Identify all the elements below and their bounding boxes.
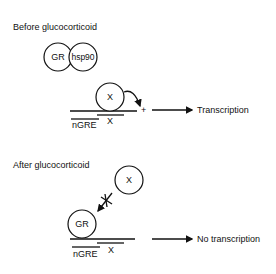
gr-label: GR xyxy=(51,52,65,62)
ngre-label: nGRE xyxy=(72,120,97,130)
gr-label: GR xyxy=(75,219,89,229)
plus-sign: + xyxy=(141,105,146,115)
diagram: Before glucocorticoid GR hsp90 X X nGRE … xyxy=(0,0,276,274)
x-protein-label: X xyxy=(126,175,132,185)
x-site-label: X xyxy=(107,116,113,126)
hsp90-label: hsp90 xyxy=(71,52,94,62)
before-panel: Before glucocorticoid GR hsp90 X X nGRE … xyxy=(13,22,249,130)
activation-arrow xyxy=(124,91,140,106)
x-site-label: X xyxy=(108,245,114,255)
x-protein-label: X xyxy=(107,92,113,102)
ngre-label: nGRE xyxy=(73,249,98,259)
before-title: Before glucocorticoid xyxy=(13,22,97,32)
outcome-label: No transcription xyxy=(197,234,260,244)
after-panel: After glucocorticoid X GR X nGRE No tran… xyxy=(13,160,260,259)
outcome-label: Transcription xyxy=(197,105,249,115)
glucocorticoid-diagram: Before glucocorticoid GR hsp90 X X nGRE … xyxy=(0,0,276,274)
after-title: After glucocorticoid xyxy=(13,160,90,170)
